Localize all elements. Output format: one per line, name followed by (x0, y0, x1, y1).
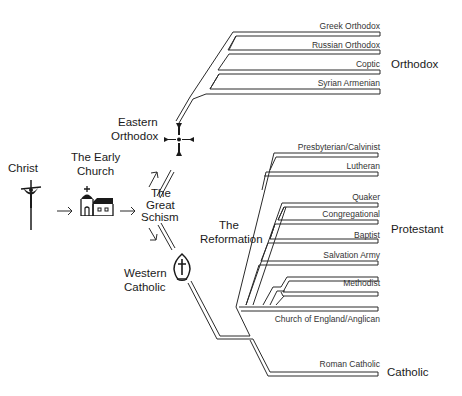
christianity-family-tree: Christ The Early Church The Great Schism… (0, 0, 462, 396)
branch-label: Syrian Armenian (318, 79, 380, 88)
early-church-label-line1: The Early (71, 152, 120, 164)
branch-label: Presbyterian/Calvinist (298, 143, 380, 152)
group-label-catholic: Catholic (387, 367, 429, 379)
group-label-orthodox: Orthodox (391, 59, 438, 71)
christ-label: Christ (8, 163, 38, 175)
western-catholic-label-line1: Western (124, 268, 167, 280)
great-schism-label-line1: The (151, 188, 171, 200)
church-building-icon (78, 186, 114, 216)
eastern-orthodox-label-line1: Eastern (118, 117, 158, 129)
eastern-orthodox-label-line2: Orthodox (111, 131, 158, 143)
branch-label: Lutheran (346, 162, 380, 171)
branch-label: Roman Catholic (320, 360, 380, 369)
branch-label: Baptist (354, 231, 380, 240)
crucifix-icon (20, 180, 42, 230)
branch-label: Greek Orthodox (320, 22, 380, 31)
western-catholic-label-line2: Catholic (124, 282, 166, 294)
early-church-label-line2: Church (77, 166, 114, 178)
branch-label: Methodist (343, 279, 380, 288)
maltese-cross-icon (164, 123, 194, 156)
reformation-label-line2: Reformation (200, 234, 263, 246)
branch-label: Salvation Army (323, 251, 380, 260)
branch-label: Quaker (352, 193, 380, 202)
branch-label: Church of England/Anglican (275, 315, 380, 324)
great-schism-label-line3: Schism (141, 212, 179, 224)
group-label-protestant: Protestant (391, 224, 443, 236)
great-schism-label-line2: Great (146, 200, 175, 212)
branch-label: Russian Orthodox (312, 41, 380, 50)
reformation-label-line1: The (219, 220, 239, 232)
branch-label: Congregational (322, 210, 380, 219)
mitre-icon (172, 253, 192, 283)
branch-label: Coptic (356, 60, 380, 69)
